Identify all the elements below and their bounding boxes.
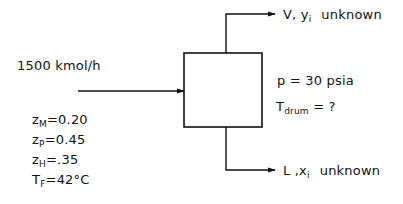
feed-flow-text: 1500 kmol/h: [17, 58, 101, 73]
var: z: [32, 132, 39, 147]
eq: =: [45, 132, 56, 147]
liquid-outlet-arrow: [226, 127, 275, 170]
temp-rest: = ?: [309, 99, 336, 114]
var: z: [32, 152, 39, 167]
temp-var: T: [276, 99, 284, 114]
eq: =: [46, 172, 57, 187]
value: 0.45: [56, 132, 86, 147]
liquid-stream-label: L ,xiunknown: [283, 164, 380, 177]
vapor-outlet-arrow: [226, 14, 275, 53]
vapor-sub: i: [309, 14, 312, 24]
value: 0.20: [58, 112, 88, 127]
flash-drum-box: [184, 53, 262, 127]
drum-temperature-label: Tdrum = ?: [276, 100, 336, 113]
value: .35: [57, 152, 78, 167]
feed-z-h: zH=.35: [32, 153, 78, 166]
feed-temperature: TF=42°C: [32, 173, 90, 186]
sub: H: [39, 159, 46, 169]
vapor-status: unknown: [321, 7, 381, 22]
liquid-sub: i: [307, 170, 310, 180]
eq: =: [46, 152, 57, 167]
vapor-stream-label: V, yiunknown: [283, 8, 382, 21]
feed-z-p: zP=0.45: [32, 133, 86, 146]
vapor-stream: V, y: [283, 7, 309, 22]
sub: M: [39, 119, 47, 129]
liquid-stream: L ,x: [283, 163, 307, 178]
liquid-status: unknown: [320, 163, 380, 178]
pressure-text: p = 30 psia: [277, 73, 354, 88]
var: T: [32, 172, 40, 187]
eq: =: [47, 112, 58, 127]
drum-pressure-label: p = 30 psia: [277, 74, 354, 87]
feed-z-m: zM=0.20: [32, 113, 88, 126]
temp-sub: drum: [284, 106, 309, 116]
feed-flow-label: 1500 kmol/h: [17, 59, 101, 72]
var: z: [32, 112, 39, 127]
value: 42°C: [57, 172, 90, 187]
